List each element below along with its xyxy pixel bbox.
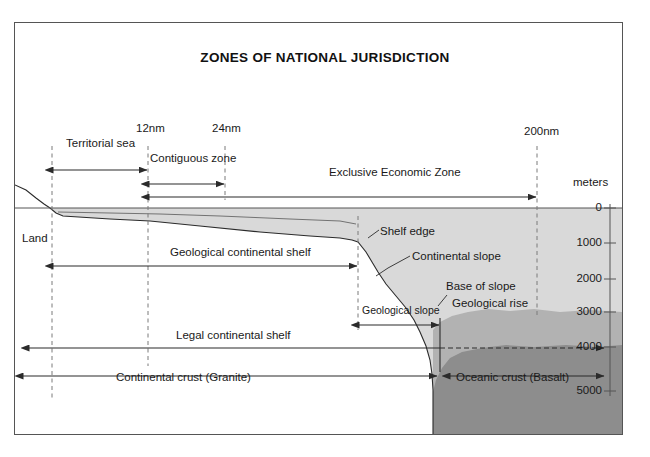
label-200nm: 200nm bbox=[524, 125, 559, 137]
label-shelf-edge: Shelf edge bbox=[380, 225, 435, 237]
depth-tick-2000: 2000 bbox=[560, 272, 602, 284]
label-geological-rise: Geological rise bbox=[452, 297, 528, 309]
label-contiguous-zone: Contiguous zone bbox=[150, 152, 236, 164]
depth-tick-0: 0 bbox=[560, 201, 602, 213]
label-depth-unit: meters bbox=[573, 176, 608, 188]
diagram-canvas: ZONES OF NATIONAL JURISDICTION bbox=[0, 0, 650, 457]
label-24nm: 24nm bbox=[212, 122, 241, 134]
label-territorial-sea: Territorial sea bbox=[66, 137, 135, 149]
label-12nm: 12nm bbox=[136, 122, 165, 134]
label-eez: Exclusive Economic Zone bbox=[329, 166, 461, 178]
label-geological-continental-shelf: Geological continental shelf bbox=[170, 246, 311, 258]
depth-tick-4000: 4000 bbox=[560, 340, 602, 352]
label-land: Land bbox=[22, 232, 48, 244]
diagram-graphics bbox=[0, 0, 650, 457]
depth-tick-1000: 1000 bbox=[560, 236, 602, 248]
label-continental-slope: Continental slope bbox=[412, 250, 501, 262]
label-legal-continental-shelf: Legal continental shelf bbox=[176, 329, 290, 341]
label-geological-slope: Geological slope bbox=[362, 305, 440, 316]
depth-tick-3000: 3000 bbox=[560, 305, 602, 317]
label-oceanic-crust: Oceanic crust (Basalt) bbox=[456, 371, 569, 383]
label-base-of-slope: Base of slope bbox=[446, 280, 516, 292]
depth-tick-5000: 5000 bbox=[560, 384, 602, 396]
label-continental-crust: Continental crust (Granite) bbox=[116, 371, 251, 383]
